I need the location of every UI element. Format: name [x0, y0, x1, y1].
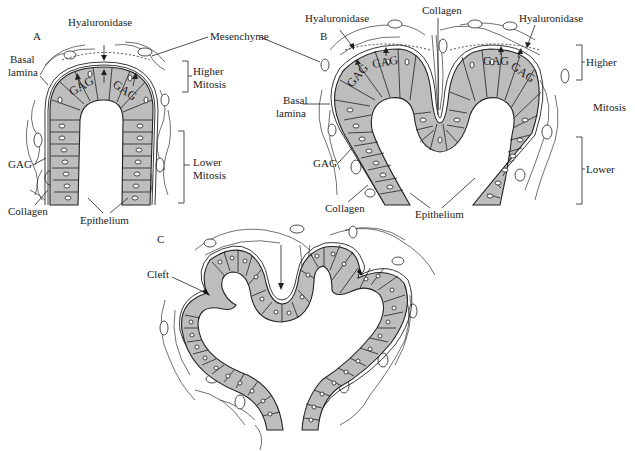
mesenchyme-cell — [138, 48, 152, 56]
mesenchyme-cell — [161, 94, 169, 106]
label-mesenchyme: Mesenchyme — [210, 30, 269, 42]
label-higher: Higher — [586, 56, 617, 68]
mesenchyme-cell — [349, 226, 357, 238]
label-basal-lamina: Basal — [10, 53, 34, 65]
bracket-higher — [182, 61, 188, 92]
bracket-higher — [576, 45, 582, 80]
label-cleft: Cleft — [147, 268, 169, 280]
label-epithelium: Epithelium — [80, 214, 129, 226]
mesenchyme-cell — [156, 158, 164, 172]
label-lower: Lower — [586, 163, 615, 175]
panel-c: C — [147, 225, 435, 450]
label-collagen-top: Collagen — [422, 4, 462, 16]
mesenchyme-cell — [388, 20, 402, 28]
mesenchyme-cell — [321, 59, 329, 71]
label-hyaluronidase-left: Hyaluronidase — [305, 12, 369, 24]
mesenchyme-cell — [290, 225, 304, 233]
mesenchyme-cell — [235, 395, 245, 409]
bracket-lower — [178, 131, 184, 203]
mesenchyme-cell — [409, 304, 417, 318]
panel-b-letter: B — [320, 30, 327, 42]
mesenchyme-cell — [515, 169, 525, 181]
label-hyaluronidase: Hyaluronidase — [68, 16, 132, 28]
label-mitosis: Mitosis — [593, 101, 626, 113]
label-lower-mitosis: Mitosis — [193, 169, 226, 181]
panel-c-letter: C — [157, 233, 164, 245]
mesenchyme-cell — [468, 20, 482, 28]
gag-label: GAG — [483, 54, 509, 68]
panel-a-letter: A — [33, 30, 41, 42]
label-higher-mitosis: Mitosis — [193, 78, 226, 90]
label-collagen-bottom: Collagen — [325, 202, 365, 214]
label-lower-mitosis: Lower — [193, 156, 222, 168]
mesenchyme-cell — [503, 22, 517, 30]
mesenchyme-cell — [34, 133, 42, 147]
label-gag: GAG — [313, 157, 337, 169]
mesenchyme-cell — [542, 125, 552, 139]
bracket-lower — [576, 137, 582, 204]
mesenchyme-cell — [204, 239, 216, 247]
mesenchyme-cell — [365, 189, 375, 197]
mesenchyme-cell — [328, 124, 336, 136]
label-basal-lamina: lamina — [276, 107, 306, 119]
label-collagen: Collagen — [8, 205, 48, 217]
mesenchyme-cell — [392, 257, 404, 265]
mesenchyme-cell — [561, 69, 569, 83]
label-gag: GAG — [8, 158, 32, 170]
arrow-icon-c — [278, 245, 284, 290]
morphogenesis-diagram: A — [0, 0, 635, 451]
label-basal-lamina: lamina — [8, 66, 38, 78]
mesenchyme-cell — [439, 39, 447, 53]
panel-a: A — [8, 16, 320, 226]
label-hyaluronidase-right: Hyaluronidase — [519, 12, 583, 24]
panel-b: B — [276, 4, 626, 220]
label-epithelium: Epithelium — [415, 208, 464, 220]
mesenchyme-cell — [160, 321, 168, 335]
epithelium-c — [182, 247, 408, 430]
label-higher-mitosis: Higher — [193, 65, 224, 77]
